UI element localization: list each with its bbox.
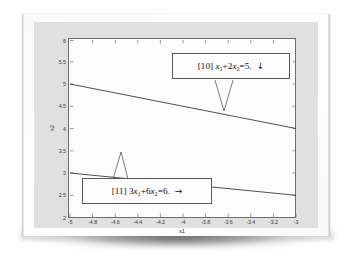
y-tick-label: 2.5	[59, 192, 66, 198]
x-tick-label: -5	[68, 219, 73, 225]
paper-left-edge	[22, 14, 24, 236]
screenshot-root: 2 2.5 3 3.5 4 4.5 5 5.5 6 -5 -4.8 -4.6 -…	[0, 0, 356, 277]
annotation-10-tag: [10]	[198, 61, 213, 71]
annotation-callout-10: [10] x1+2x2=5.↓	[172, 53, 290, 79]
right-arrow-icon: →	[170, 186, 183, 196]
y-tick-label: 3	[63, 170, 66, 176]
callout-10-leader	[215, 80, 233, 111]
annotation-10-equation: [10] x1+2x2=5.↓	[198, 61, 264, 72]
y-tick-label: 4	[63, 126, 66, 132]
x-tick-label: -3.6	[224, 219, 233, 225]
y-tick-label: 4.5	[59, 103, 66, 109]
y-axis-label: x2	[49, 125, 55, 131]
down-arrow-icon: ↓	[252, 61, 265, 71]
annotation-11-equation: [11] 3x1+6x2=6.→	[112, 186, 183, 197]
x-tick-label: -3.8	[201, 219, 210, 225]
paper-right-edge	[328, 14, 330, 236]
y-tick-label: 5	[63, 81, 66, 87]
x-tick-label: -3.2	[269, 219, 278, 225]
annotation-11-rhs: 6.	[163, 186, 170, 196]
x-tick-label: -4.4	[133, 219, 142, 225]
x-tick-label: -4.6	[111, 219, 120, 225]
x-tick-marks	[70, 214, 296, 218]
x-tick-label: -3	[294, 219, 299, 225]
x-tick-label: -4.2	[156, 219, 165, 225]
annotation-callout-11: [11] 3x1+6x2=6.→	[82, 178, 212, 204]
y-tick-label: 3.5	[59, 148, 66, 154]
x-tick-label: -4	[181, 219, 186, 225]
x-tick-label: -4.8	[88, 219, 97, 225]
y-tick-label: 6	[63, 38, 66, 44]
x-tick-label: -3.4	[246, 219, 255, 225]
y-tick-marks	[70, 41, 74, 218]
y-tick-label: 5.5	[59, 59, 66, 65]
annotation-10-rhs: 5.	[245, 61, 252, 71]
y-tick-label: 2	[63, 215, 66, 221]
annotation-11-tag: [11]	[112, 186, 127, 196]
x-axis-label: x1	[69, 228, 295, 234]
data-line-10	[70, 84, 296, 129]
x-tick-marks-top	[93, 40, 274, 44]
callout-11-leader	[113, 152, 128, 179]
